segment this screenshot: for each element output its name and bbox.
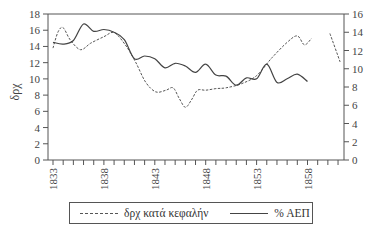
solid-line-swatch-icon	[230, 213, 268, 214]
y-right-tick-label: 0	[352, 154, 358, 166]
legend: δρχ κατά κεφαλήν % ΑΕΠ	[69, 202, 313, 224]
dashed-line-swatch-icon	[80, 213, 118, 214]
y-right-tick-label: 10	[352, 63, 364, 75]
series-layer	[53, 24, 340, 107]
x-tick-label: 1853	[251, 168, 263, 191]
y-tick-label: 8	[35, 89, 41, 101]
x-tick-label: 1838	[98, 168, 110, 191]
y-tick-label: 12	[29, 57, 40, 69]
y-right-tick-label: 16	[352, 8, 364, 20]
legend-label: δρχ κατά κεφαλήν	[124, 207, 208, 219]
y-tick-label: 4	[35, 122, 41, 134]
legend-label: % ΑΕΠ	[274, 207, 309, 219]
y-right-tick-label: 6	[352, 99, 358, 111]
y-right-tick-label: 4	[352, 118, 358, 130]
x-tick-label: 1858	[302, 168, 314, 191]
y-right-tick-label: 12	[352, 45, 363, 57]
y-right-tick-label: 2	[352, 136, 358, 148]
y-right-tick-label: 14	[352, 26, 364, 38]
right-y-ticks: 0246810121416	[344, 8, 364, 166]
series-line-drachmas-per-capita	[330, 34, 340, 62]
y-axis-title: δρχ	[8, 83, 22, 101]
y-tick-label: 14	[29, 40, 41, 52]
y-tick-label: 10	[29, 73, 41, 85]
y-tick-label: 16	[29, 24, 41, 36]
y-right-tick-label: 8	[352, 81, 358, 93]
y-tick-label: 0	[35, 154, 41, 166]
left-y-ticks: 024681012141618	[29, 8, 48, 166]
dual-axis-line-chart: 024681012141618 0246810121416 1833183818…	[0, 0, 371, 200]
x-tick-label: 1848	[200, 168, 212, 191]
x-tick-label: 1843	[149, 168, 161, 191]
legend-item-drachmas-per-capita: δρχ κατά κεφαλήν	[80, 207, 208, 219]
x-tick-label: 1833	[47, 168, 59, 191]
y-tick-label: 2	[35, 138, 41, 150]
x-ticks: 183318381843184818531858	[47, 160, 338, 190]
y-tick-label: 18	[29, 8, 41, 20]
y-tick-label: 6	[35, 105, 41, 117]
series-line-drachmas-per-capita	[53, 27, 312, 107]
plot-frame	[48, 14, 344, 160]
series-line-percent-gdp	[53, 24, 308, 85]
legend-item-percent-gdp: % ΑΕΠ	[230, 207, 309, 219]
